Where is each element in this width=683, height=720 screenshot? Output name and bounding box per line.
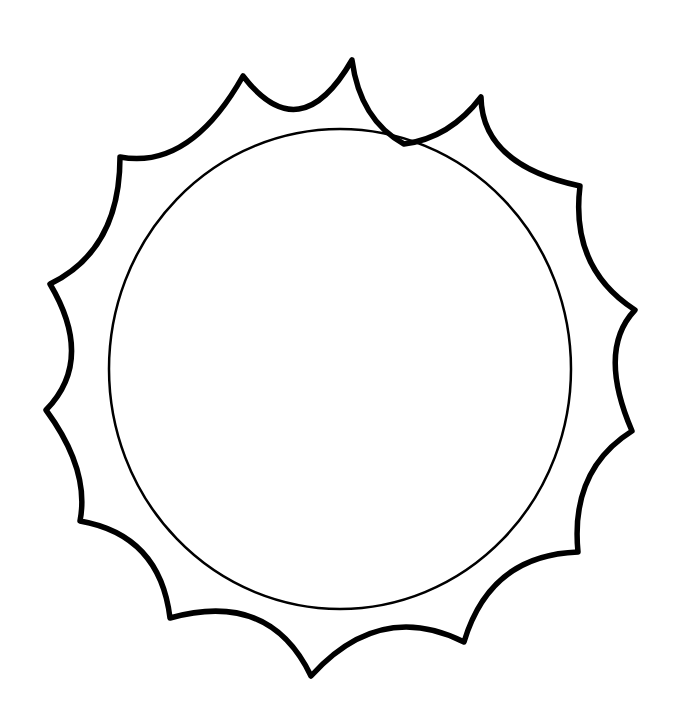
sun-inner-circle	[109, 129, 571, 609]
sun-drawing	[0, 0, 683, 720]
sun-rays-outline	[46, 60, 635, 676]
